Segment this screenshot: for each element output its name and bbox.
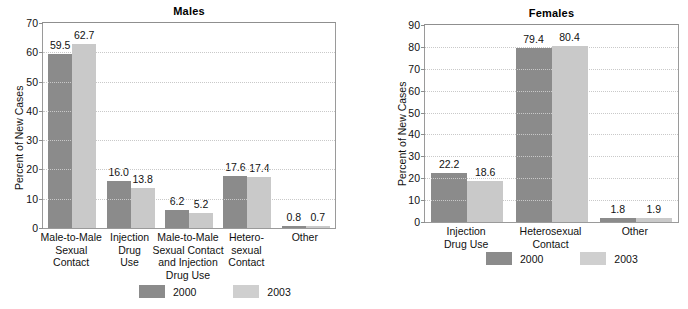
y-axis-tick-label: 30 — [10, 134, 38, 146]
y-axis-tick-label: 70 — [392, 63, 420, 75]
y-axis-tick-label: 10 — [392, 194, 420, 206]
bar-2003-0 — [467, 181, 503, 222]
y-axis-tick-label: 90 — [392, 19, 420, 31]
y-axis-tick-label: 50 — [392, 107, 420, 119]
bar-value-label: 22.2 — [439, 158, 459, 170]
bars-layer-females: 22.218.679.480.41.81.9 — [425, 25, 678, 222]
y-axis-tick-mark — [39, 140, 43, 141]
grid-line — [43, 52, 335, 53]
legend-swatch-2003-icon — [580, 252, 606, 265]
grid-line — [43, 169, 335, 170]
bar-value-label: 18.6 — [475, 166, 495, 178]
bar-2000-3 — [223, 176, 247, 228]
bar-value-label: 59.5 — [50, 39, 70, 51]
y-axis-tick-mark — [421, 134, 425, 135]
legend-swatch-2000-icon — [139, 285, 165, 298]
legend-label-2000: 2000 — [173, 286, 196, 298]
y-axis-tick-mark — [421, 47, 425, 48]
legend-swatch-2000-icon — [486, 252, 512, 265]
x-axis-category-label: Other — [580, 225, 688, 238]
bar-2000-0 — [431, 173, 467, 222]
y-axis-tick-mark — [39, 52, 43, 53]
y-axis-tick-label: 40 — [10, 105, 38, 117]
y-axis-tick-mark — [39, 228, 43, 229]
bar-value-label: 62.7 — [74, 29, 94, 41]
grid-line — [425, 134, 678, 135]
bar-value-label: 6.2 — [170, 195, 185, 207]
bars-layer-males: 59.562.716.013.86.25.217.617.40.80.7 — [43, 23, 335, 228]
grid-line — [43, 140, 335, 141]
legend-item-2000: 2000 — [486, 252, 543, 265]
bar-value-label: 16.0 — [108, 166, 128, 178]
y-axis-tick-label: 10 — [10, 193, 38, 205]
bar-2003-0 — [72, 44, 96, 228]
chart-title-females: Females — [424, 7, 679, 19]
y-axis-tick-label: 50 — [10, 76, 38, 88]
y-axis-tick-mark — [39, 199, 43, 200]
bar-value-label: 80.4 — [559, 31, 579, 43]
bar-2003-2 — [189, 213, 213, 228]
y-axis-tick-label: 80 — [392, 41, 420, 53]
bar-value-label: 0.7 — [310, 211, 325, 223]
y-axis-tick-label: 20 — [392, 172, 420, 184]
y-axis-tick-mark — [421, 200, 425, 201]
legend-swatch-2003-icon — [233, 285, 259, 298]
y-axis-tick-label: 60 — [392, 85, 420, 97]
bar-value-label: 17.6 — [225, 161, 245, 173]
legend-item-2003: 2003 — [233, 285, 290, 298]
y-axis-tick-mark — [421, 156, 425, 157]
bar-value-label: 1.9 — [647, 203, 662, 215]
bar-value-label: 0.8 — [286, 211, 301, 223]
grid-line — [43, 199, 335, 200]
grid-line — [425, 113, 678, 114]
bar-value-label: 13.8 — [132, 173, 152, 185]
grid-line — [425, 178, 678, 179]
y-axis-tick-label: 70 — [10, 17, 38, 29]
y-axis-tick-label: 20 — [10, 163, 38, 175]
grid-line — [425, 69, 678, 70]
plot-area-females: 22.218.679.480.41.81.9 01020304050607080… — [424, 24, 679, 223]
y-axis-tick-mark — [421, 178, 425, 179]
bar-2003-2 — [636, 218, 672, 222]
y-axis-tick-label: 60 — [10, 46, 38, 58]
bar-2000-1 — [107, 181, 131, 228]
grid-line — [425, 156, 678, 157]
legend-label-2003: 2003 — [267, 286, 290, 298]
grid-line — [425, 47, 678, 48]
bar-2003-1 — [131, 188, 155, 228]
y-axis-tick-mark — [39, 23, 43, 24]
legend-females: 2000 2003 — [486, 252, 638, 265]
bar-2000-4 — [282, 226, 306, 228]
legend-item-2000: 2000 — [139, 285, 196, 298]
bar-value-label: 79.4 — [523, 33, 543, 45]
legend-label-2000: 2000 — [520, 253, 543, 265]
y-axis-tick-mark — [421, 25, 425, 26]
grid-line — [43, 111, 335, 112]
bar-value-label: 17.4 — [249, 162, 269, 174]
grid-line — [425, 200, 678, 201]
bar-2000-2 — [600, 218, 636, 222]
bar-2003-4 — [306, 226, 330, 228]
bar-2000-2 — [165, 210, 189, 228]
y-axis-tick-mark — [421, 222, 425, 223]
y-axis-tick-mark — [421, 113, 425, 114]
grid-line — [425, 91, 678, 92]
plot-area-males: 59.562.716.013.86.25.217.617.40.80.7 010… — [42, 22, 336, 229]
y-axis-tick-label: 40 — [392, 128, 420, 140]
y-axis-tick-mark — [421, 69, 425, 70]
legend-item-2003: 2003 — [580, 252, 637, 265]
legend-males: 2000 2003 — [139, 285, 291, 298]
legend-label-2003: 2003 — [614, 253, 637, 265]
bar-value-label: 1.8 — [611, 203, 626, 215]
bar-2003-3 — [247, 177, 271, 228]
y-axis-tick-label: 30 — [392, 150, 420, 162]
chart-panel-males: Males Percent of New Cases 59.562.716.01… — [0, 0, 344, 309]
y-axis-tick-mark — [39, 82, 43, 83]
y-axis-tick-mark — [39, 169, 43, 170]
grid-line — [43, 82, 335, 83]
y-axis-tick-mark — [421, 91, 425, 92]
chart-title-males: Males — [42, 5, 336, 17]
y-axis-tick-mark — [39, 111, 43, 112]
